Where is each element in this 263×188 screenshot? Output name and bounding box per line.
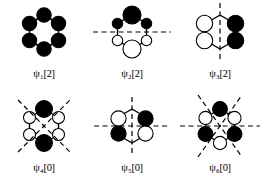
lobe-lower-right xyxy=(51,33,65,47)
psi-symbol: ψ xyxy=(33,68,40,79)
lobe-upper-right xyxy=(228,111,241,124)
lobe-bottom xyxy=(36,134,53,151)
lobe-top xyxy=(123,6,141,24)
mo-diagram-psi5 xyxy=(88,96,176,162)
mo-label-psi2: ψ2[2] xyxy=(121,69,143,81)
mo-label-psi3: ψ3[2] xyxy=(209,69,231,81)
lobe-top xyxy=(213,101,228,116)
mo-label-psi6: ψ6[0] xyxy=(209,163,231,175)
lobe-upper-right xyxy=(53,111,65,123)
lobe-lower-left xyxy=(111,125,126,140)
psi-symbol: ψ xyxy=(209,68,216,79)
lobe-lower-right xyxy=(138,125,153,140)
mo-panel-psi1: ψ1[2] xyxy=(0,0,88,94)
psi-occupancy: [0] xyxy=(219,162,230,173)
psi-occupancy: [2] xyxy=(43,68,54,79)
mo-figure-grid: ψ1[2] xyxy=(0,0,263,187)
lobe-bottom xyxy=(37,42,51,56)
lobe-lower-left xyxy=(112,35,122,45)
lobe-lower-left xyxy=(24,128,36,140)
mo-diagram-psi1 xyxy=(0,2,88,68)
lobe-upper-left xyxy=(112,18,122,28)
mo-label-psi5: ψ5[0] xyxy=(121,163,143,175)
psi-occupancy: [2] xyxy=(219,68,230,79)
lobe-upper-right xyxy=(141,18,151,28)
psi-symbol: ψ xyxy=(209,162,216,173)
lobe-lower-left xyxy=(22,33,36,47)
lobe-lower-left xyxy=(196,32,212,48)
psi-occupancy: [0] xyxy=(43,162,54,173)
lobe-upper-left xyxy=(111,110,126,125)
lobe-upper-left xyxy=(22,16,36,30)
mo-label-psi1: ψ1[2] xyxy=(33,69,55,81)
lobe-bottom xyxy=(213,136,226,149)
mo-panel-psi5: ψ5[0] xyxy=(88,94,176,188)
mo-diagram-psi3 xyxy=(176,2,263,68)
lobe-upper-right xyxy=(51,16,65,30)
psi-occupancy: [0] xyxy=(131,162,142,173)
lobe-bottom xyxy=(123,40,141,58)
lobe-top xyxy=(36,100,53,117)
mo-panel-psi6: ψ6[0] xyxy=(176,94,263,188)
psi-symbol: ψ xyxy=(33,162,40,173)
lobe-upper-left xyxy=(199,111,212,124)
mo-panel-psi4: ψ4[0] xyxy=(0,94,88,188)
psi-symbol: ψ xyxy=(121,162,128,173)
lobe-upper-right xyxy=(227,15,243,31)
mo-diagram-psi2 xyxy=(88,2,176,68)
mo-panel-psi3: ψ3[2] xyxy=(176,0,263,94)
lobe-upper-right xyxy=(138,110,153,125)
mo-label-psi4: ψ4[0] xyxy=(33,163,55,175)
mo-panel-psi2: ψ2[2] xyxy=(88,0,176,94)
psi-symbol: ψ xyxy=(121,68,128,79)
mo-diagram-psi6 xyxy=(176,96,263,162)
lobe-upper-left xyxy=(24,111,36,123)
lobe-top xyxy=(37,8,51,22)
lobe-lower-right xyxy=(53,128,65,140)
mo-diagram-psi4 xyxy=(0,96,88,162)
lobe-upper-left xyxy=(196,15,212,31)
lobe-lower-right xyxy=(141,35,151,45)
psi-occupancy: [2] xyxy=(131,68,142,79)
lobe-lower-right xyxy=(227,32,243,48)
